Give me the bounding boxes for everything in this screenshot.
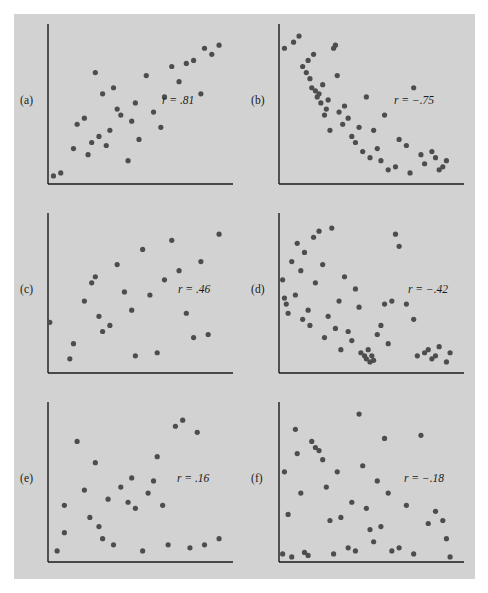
data-point bbox=[426, 347, 431, 352]
data-point bbox=[336, 109, 341, 114]
data-point bbox=[82, 487, 87, 492]
data-point bbox=[437, 344, 442, 349]
data-point bbox=[371, 128, 376, 133]
data-point bbox=[295, 451, 300, 456]
data-point bbox=[191, 335, 196, 340]
data-point bbox=[93, 70, 98, 75]
data-point bbox=[342, 103, 347, 108]
scatterplot-grid: (a) r = .81 (b) r = −.75 bbox=[14, 14, 475, 579]
data-point bbox=[316, 448, 321, 453]
data-point bbox=[322, 113, 327, 118]
data-point bbox=[62, 503, 67, 508]
data-point bbox=[280, 551, 285, 556]
data-point bbox=[298, 268, 303, 273]
data-point bbox=[440, 164, 445, 169]
data-point bbox=[360, 149, 365, 154]
data-point bbox=[311, 52, 316, 57]
data-point bbox=[89, 280, 94, 285]
data-point bbox=[198, 91, 203, 96]
panel-d-letter: (d) bbox=[251, 283, 265, 295]
data-point bbox=[180, 418, 185, 423]
data-point bbox=[349, 500, 354, 505]
panel-a-letter: (a) bbox=[20, 94, 33, 106]
data-point bbox=[320, 262, 325, 267]
data-point bbox=[136, 137, 141, 142]
data-point bbox=[187, 545, 192, 550]
panel-b-r-value: r = −.75 bbox=[394, 94, 434, 106]
data-point bbox=[369, 353, 374, 358]
data-point bbox=[324, 484, 329, 489]
data-point bbox=[144, 73, 149, 78]
data-point bbox=[82, 298, 87, 303]
panel-d: (d) r = −.42 bbox=[245, 203, 475, 391]
data-point bbox=[140, 247, 145, 252]
data-point bbox=[316, 91, 321, 96]
data-point bbox=[397, 137, 402, 142]
data-point bbox=[93, 460, 98, 465]
data-point bbox=[118, 484, 123, 489]
data-point bbox=[356, 411, 361, 416]
data-point bbox=[320, 82, 325, 87]
data-point bbox=[216, 43, 221, 48]
panel-d-plot bbox=[245, 203, 475, 391]
panel-e-r-value: r = .16 bbox=[177, 472, 209, 484]
figure-root: (a) r = .81 (b) r = −.75 bbox=[0, 0, 488, 593]
data-point bbox=[289, 259, 294, 264]
data-point bbox=[191, 58, 196, 63]
data-point bbox=[333, 326, 338, 331]
data-point bbox=[100, 91, 105, 96]
data-point bbox=[133, 506, 138, 511]
data-point bbox=[309, 439, 314, 444]
data-point bbox=[282, 295, 287, 300]
data-point bbox=[169, 238, 174, 243]
panel-f-r-label: r = −.18 bbox=[404, 472, 444, 484]
panel-f: (f) r = −.18 bbox=[245, 392, 475, 579]
data-point bbox=[397, 545, 402, 550]
data-point bbox=[176, 268, 181, 273]
data-point bbox=[306, 553, 311, 558]
data-point bbox=[340, 122, 345, 127]
data-point bbox=[375, 332, 380, 337]
data-point bbox=[147, 292, 152, 297]
data-point bbox=[378, 323, 383, 328]
data-point bbox=[302, 250, 307, 255]
data-point bbox=[375, 146, 380, 151]
data-point bbox=[284, 302, 289, 307]
data-point bbox=[335, 73, 340, 78]
data-point bbox=[447, 554, 452, 559]
data-point bbox=[346, 116, 351, 121]
data-point bbox=[160, 503, 165, 508]
data-point bbox=[444, 536, 449, 541]
data-point bbox=[389, 548, 394, 553]
data-point bbox=[118, 113, 123, 118]
data-point bbox=[433, 353, 438, 358]
data-point bbox=[367, 527, 372, 532]
data-point bbox=[371, 358, 376, 363]
data-point bbox=[422, 161, 427, 166]
data-point bbox=[298, 491, 303, 496]
data-point bbox=[415, 353, 420, 358]
data-point bbox=[162, 277, 167, 282]
data-point bbox=[382, 436, 387, 441]
data-point bbox=[71, 146, 76, 151]
data-point bbox=[67, 356, 72, 361]
data-point bbox=[286, 311, 291, 316]
data-point bbox=[386, 167, 391, 172]
panel-f-letter: (f) bbox=[251, 472, 263, 484]
data-point bbox=[378, 158, 383, 163]
data-point bbox=[206, 332, 211, 337]
data-point bbox=[125, 158, 130, 163]
data-point bbox=[433, 155, 438, 160]
data-point bbox=[349, 338, 354, 343]
data-point bbox=[155, 350, 160, 355]
data-point bbox=[286, 512, 291, 517]
data-point bbox=[307, 323, 312, 328]
data-point bbox=[331, 551, 336, 556]
data-point bbox=[329, 226, 334, 231]
data-point bbox=[444, 158, 449, 163]
data-point bbox=[411, 317, 416, 322]
data-point bbox=[364, 94, 369, 99]
data-point bbox=[133, 100, 138, 105]
data-point bbox=[322, 335, 327, 340]
panel-b: (b) r = −.75 bbox=[245, 14, 475, 202]
